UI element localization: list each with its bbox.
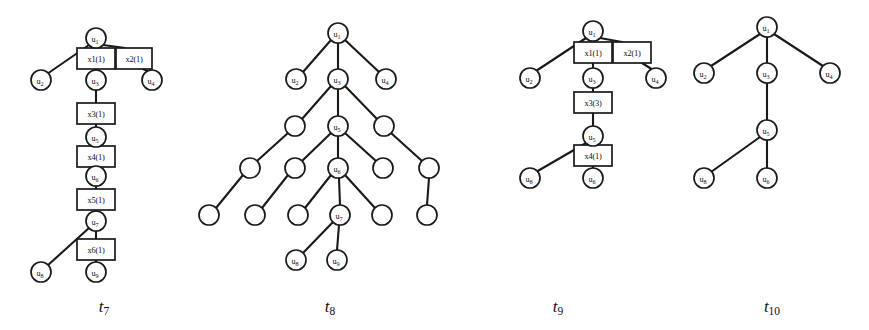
box-label-x4: x4(1)	[584, 152, 602, 161]
tree-node-t8-u7: u7	[330, 205, 350, 225]
tree-node-t7-u1: u1	[86, 28, 106, 48]
node-circle-n-l2-left	[285, 116, 305, 136]
tree-edge-t8-u5-d	[302, 133, 331, 161]
node-circle-n-l4-c	[288, 205, 308, 225]
tree-edge-t8-u1-u2	[303, 40, 331, 72]
tree-node-t8-u9: u9	[327, 250, 347, 270]
tree-node-t7-u9: u9	[86, 262, 106, 282]
tree-node-t9-u8: u8	[520, 168, 540, 188]
tree-node-t8-n-l2-left	[285, 116, 305, 136]
tree-node-t9-u6: u6	[583, 168, 603, 188]
tree-node-t8-n-l3-b	[285, 158, 305, 178]
tree-node-t10-u2: u2	[694, 63, 714, 83]
node-circle-n-l3-a	[240, 158, 260, 178]
box-label-x5: x5(1)	[87, 196, 105, 205]
node-circle-n-l2-right	[374, 116, 394, 136]
tree-node-t7-u2: u2	[31, 70, 51, 90]
tree-node-t8-u4: u4	[376, 69, 396, 89]
tree-node-t8-u6: u6	[328, 158, 348, 178]
tree-edge-t8-l2r-f	[391, 133, 422, 161]
tree-node-t10-u1: u1	[757, 17, 777, 37]
node-circle-n-l4-d	[372, 205, 392, 225]
tree-edge-t8-u6-j	[345, 175, 375, 208]
tree-node-t8-n-l4-b	[245, 205, 265, 225]
tree-edge-t8-u5-e	[345, 133, 376, 161]
caption-t8: t8	[325, 297, 336, 317]
tree-edge-t8-u3-a	[302, 86, 331, 119]
tree-edge-t8-u6-u7	[339, 178, 340, 205]
tree-node-t10-u4: u4	[820, 63, 840, 83]
tree-edge-t10-u1-u4	[774, 34, 823, 66]
tree-node-t9-u2: u2	[520, 68, 540, 88]
tree-box-t9-x4: x4(1)	[574, 145, 612, 166]
node-circle-n-l3-d	[419, 158, 439, 178]
tree-edge-t8-u3-b	[345, 86, 377, 119]
tree-box-t7-x3: x3(1)	[77, 103, 115, 124]
box-label-x4: x4(1)	[87, 153, 105, 162]
tree-node-t8-n-l4-a	[199, 205, 219, 225]
tree-edge-t10-u1-u2	[711, 34, 760, 66]
tree-edge-t8-u1-u4	[345, 40, 379, 72]
box-label-x1: x1(1)	[87, 55, 105, 64]
tree-node-t8-u2: u2	[286, 69, 306, 89]
tree-node-t8-n-l3-a	[240, 158, 260, 178]
tree-box-t9-x1: x1(1)	[574, 42, 612, 63]
tree-box-t7-x6: x6(1)	[77, 239, 115, 260]
tree-node-t8-u5: u5	[328, 116, 348, 136]
tree-edge-t8-u6-i	[305, 175, 331, 208]
tree-edge-t8-l3d-k	[427, 178, 429, 205]
tree-node-t10-u8: u8	[694, 168, 714, 188]
tree-node-t7-u4: u4	[142, 70, 162, 90]
tree-node-t9-u5: u5	[583, 126, 603, 146]
tree-box-t9-x3: x3(3)	[574, 92, 612, 113]
caption-t10: t10	[764, 297, 780, 317]
tree-node-t7-u3: u3	[86, 70, 106, 90]
tree-box-t7-x1: x1(1)	[77, 48, 115, 69]
box-label-x6: x6(1)	[87, 246, 105, 255]
box-label-x2: x2(1)	[125, 55, 143, 64]
box-label-x1: x1(1)	[584, 49, 602, 58]
tree-figures-svg: x1(1)x2(1)x3(1)x4(1)x5(1)x6(1)x1(1)x2(1)…	[0, 0, 869, 330]
tree-box-t9-x2: x2(1)	[613, 42, 651, 63]
caption-t9: t9	[553, 297, 564, 317]
tree-box-t7-x4: x4(1)	[77, 146, 115, 167]
box-label-x3: x3(1)	[87, 110, 105, 119]
tree-node-t8-u8: u8	[286, 250, 306, 270]
tree-node-t10-u3: u3	[757, 63, 777, 83]
tree-node-t7-u8: u8	[31, 262, 51, 282]
tree-edge-t8-u7-u8	[302, 222, 333, 254]
box-label-x2: x2(1)	[623, 49, 641, 58]
captions-layer: t7t8t9t10	[99, 297, 781, 317]
tree-node-t8-u3: u3	[328, 69, 348, 89]
node-circle-n-l3-b	[285, 158, 305, 178]
tree-node-t10-u5: u5	[757, 120, 777, 140]
tree-box-t7-x2: x2(1)	[116, 48, 152, 69]
tree-edge-t8-l3a-g	[216, 175, 243, 208]
caption-t7: t7	[99, 297, 110, 317]
node-circle-n-l4-b	[245, 205, 265, 225]
box-label-x3: x3(3)	[584, 99, 602, 108]
tree-node-t9-u3: u3	[583, 68, 603, 88]
tree-node-t8-n-l4-e	[417, 205, 437, 225]
tree-node-t8-n-l2-right	[374, 116, 394, 136]
tree-node-t10-u6: u6	[757, 168, 777, 188]
tree-node-t8-n-l3-d	[419, 158, 439, 178]
tree-node-t8-n-l3-c	[373, 158, 393, 178]
node-circle-n-l4-a	[199, 205, 219, 225]
tree-node-t8-n-l4-c	[288, 205, 308, 225]
tree-edge-t8-l2l-c	[257, 133, 288, 161]
tree-node-t9-u1: u1	[583, 21, 603, 41]
tree-box-t7-x5: x5(1)	[77, 189, 115, 210]
tree-edge-t8-l3b-h	[262, 175, 288, 208]
tree-node-t9-u4: u4	[646, 68, 666, 88]
tree-node-t7-u5: u5	[86, 127, 106, 147]
tree-node-t7-u7: u7	[86, 211, 106, 231]
node-circle-n-l4-e	[417, 205, 437, 225]
tree-edge-t8-u7-u9	[337, 225, 339, 250]
figure-container: x1(1)x2(1)x3(1)x4(1)x5(1)x6(1)x1(1)x2(1)…	[0, 0, 869, 330]
tree-node-t8-n-l4-d	[372, 205, 392, 225]
tree-node-t7-u6: u6	[86, 166, 106, 186]
tree-node-t8-u1: u1	[328, 23, 348, 43]
tree-edge-t10-u5-u8	[711, 137, 760, 172]
node-circle-n-l3-c	[373, 158, 393, 178]
